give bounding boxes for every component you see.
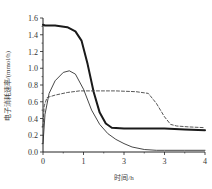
series-thin-solid (43, 71, 205, 151)
y-tick-label: 1.0 (28, 64, 38, 73)
plot-area (43, 25, 205, 151)
y-tick-label: 0.8 (28, 81, 38, 90)
y-tick-label: 0.4 (28, 115, 38, 124)
y-tick-label: 1.6 (28, 14, 38, 23)
x-tick-label: 1 (82, 157, 86, 166)
axes: 0.00.20.40.60.81.01.21.41.601334 (28, 14, 207, 166)
x-tick-label: 3 (122, 157, 126, 166)
x-tick-label: 3 (163, 157, 167, 166)
x-axis-title: 时间/h (114, 173, 134, 182)
x-tick-label: 4 (203, 157, 207, 166)
y-tick-label: 0.2 (28, 131, 38, 140)
x-tick-label: 0 (41, 157, 45, 166)
line-chart: 0.00.20.40.60.81.01.21.41.601334 电子消耗速率/… (0, 0, 212, 189)
y-tick-label: 0.6 (28, 98, 38, 107)
y-tick-label: 1.4 (28, 31, 38, 40)
y-tick-label: 1.2 (28, 48, 38, 57)
series-thick-solid (43, 25, 205, 131)
y-axis-title: 电子消耗速率/(mmol/h) (3, 50, 12, 121)
y-tick-label: 0.0 (28, 148, 38, 157)
series-dashed (43, 91, 205, 128)
